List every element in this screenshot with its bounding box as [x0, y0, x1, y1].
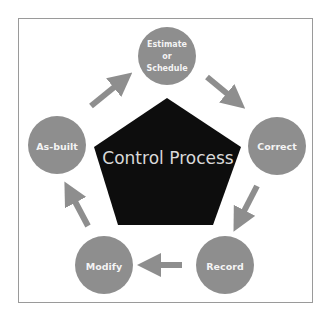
node-label-line: or	[162, 52, 171, 61]
node-as-built: As-built	[28, 116, 86, 174]
node-estimate: Estimate or Schedule	[138, 27, 196, 85]
arrow-modify-to-as-built	[70, 192, 88, 226]
center-pentagon: Control Process	[94, 98, 241, 225]
arrow-as-built-to-estimate	[91, 80, 123, 106]
arrow-estimate-to-correct	[207, 77, 236, 101]
node-label-line: Schedule	[146, 64, 188, 73]
arrow-correct-to-record	[239, 186, 257, 221]
control-process-diagram: Control Process Estimate or Schedule Cor…	[0, 0, 329, 322]
center-title: Control Process	[102, 148, 233, 168]
node-label: Modify	[86, 261, 123, 272]
node-record: Record	[196, 236, 254, 294]
node-label: Record	[206, 261, 243, 272]
node-modify: Modify	[75, 236, 133, 294]
node-label: As-built	[36, 141, 78, 152]
node-label-line: Estimate	[147, 40, 187, 49]
node-label: Correct	[257, 141, 297, 152]
node-correct: Correct	[248, 117, 306, 175]
